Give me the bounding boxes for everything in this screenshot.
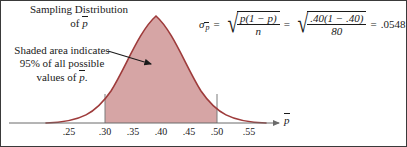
sampling-distribution-figure: Sampling Distribution of p Shaded area i…	[0, 0, 407, 147]
x-tick-label-2: .35	[127, 126, 140, 137]
x-axis-variable-label: p	[284, 113, 290, 126]
x-tick-label-5: .50	[211, 126, 224, 137]
x-tick-label-1: .30	[99, 126, 112, 137]
x-tick-label-4: .45	[183, 126, 196, 137]
x-tick-label-6: .55	[243, 126, 256, 137]
shaded-95-percent-region	[46, 16, 266, 123]
x-tick-label-0: .25	[63, 126, 76, 137]
x-tick-label-3: .40	[155, 126, 168, 137]
